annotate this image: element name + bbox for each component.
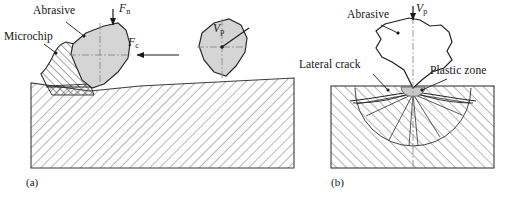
normal-force-subscript: n	[126, 7, 130, 16]
panel-caption-b: (b)	[331, 176, 344, 188]
panel-b	[331, 6, 494, 168]
velocity-a-subscript: p	[220, 27, 224, 36]
leader-abrasive-a	[66, 22, 84, 36]
panel-a	[31, 9, 294, 168]
label-velocity-a: Vp	[213, 22, 224, 36]
diagram-svg	[0, 0, 516, 199]
panel-caption-a: (a)	[26, 176, 38, 188]
label-microchip: Microchip	[4, 30, 53, 42]
label-velocity-b: Vp	[416, 2, 427, 16]
figure-canvas: Abrasive Microchip Fn Fc Vp Abrasive Vp …	[0, 0, 516, 199]
label-normal-force: Fn	[119, 2, 130, 16]
label-lateral-crack: Lateral crack	[299, 58, 361, 70]
leader-microchip	[44, 44, 56, 53]
label-abrasive-b: Abrasive	[347, 8, 389, 20]
label-abrasive-a: Abrasive	[33, 4, 75, 16]
cutting-force-subscript: c	[135, 41, 139, 50]
velocity-origin-dot-a	[220, 45, 224, 49]
label-cutting-force: Fc	[128, 36, 139, 50]
velocity-b-subscript: p	[423, 7, 427, 16]
label-plastic-zone: Plastic zone	[430, 64, 486, 76]
